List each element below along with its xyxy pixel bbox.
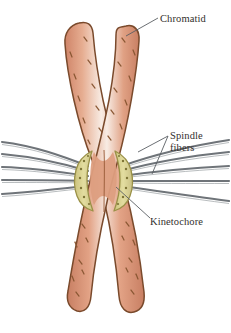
- label-chromatid: Chromatid: [160, 13, 206, 25]
- diagram-canvas: [0, 0, 231, 333]
- label-spindle-line1: Spindle: [170, 130, 203, 142]
- label-spindle-fibers: Spindle fibers: [170, 130, 203, 153]
- chromosome-diagram: Chromatid Spindle fibers Kinetochore: [0, 0, 231, 333]
- label-kinetochore: Kinetochore: [150, 216, 203, 228]
- label-kinetochore-text: Kinetochore: [150, 216, 203, 227]
- label-chromatid-text: Chromatid: [160, 13, 206, 24]
- label-spindle-line2: fibers: [170, 142, 203, 154]
